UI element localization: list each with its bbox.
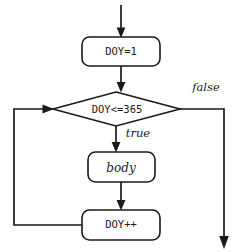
node-body[interactable]: body (88, 152, 155, 182)
edge-condition-false: false (180, 80, 229, 249)
node-condition[interactable]: DOY<=365 (53, 92, 180, 126)
init-box-label: DOY=1 (105, 45, 137, 57)
flowchart-canvas: DOY=1 DOY<=365 true body (0, 0, 244, 252)
body-box-label: body (106, 161, 136, 175)
cond-false-line (180, 109, 224, 239)
cond-false-arrowhead (219, 236, 229, 249)
edge-init-to-condition (117, 66, 126, 93)
loop-back-arrowhead (43, 104, 55, 113)
edge-label-true: true (126, 126, 151, 140)
body-to-inc-arrowhead (117, 200, 126, 211)
edge-entry-arrow (117, 5, 126, 38)
condition-label: DOY<=365 (92, 103, 143, 115)
node-init[interactable]: DOY=1 (82, 37, 160, 66)
flowchart-svg: DOY=1 DOY<=365 true body (0, 0, 244, 252)
edge-label-false: false (191, 80, 220, 94)
increment-box-label: DOY++ (105, 218, 137, 230)
loop-back-line (14, 109, 82, 225)
init-to-cond-arrowhead (117, 82, 126, 93)
edge-condition-true: true (112, 126, 151, 153)
edge-body-to-increment (117, 182, 126, 211)
cond-true-arrowhead (112, 142, 121, 153)
edge-loop-back (14, 104, 82, 225)
node-increment[interactable]: DOY++ (82, 210, 160, 240)
